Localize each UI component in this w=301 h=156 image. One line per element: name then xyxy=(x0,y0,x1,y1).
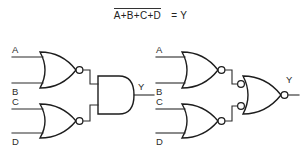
label-input-a: A xyxy=(12,44,19,55)
wire-nor1-to-and xyxy=(83,70,98,84)
label-input-d: D xyxy=(12,136,19,147)
label-input-c: C xyxy=(12,96,19,107)
circuit-canvas: A B C D Y xyxy=(0,0,301,156)
output-bubble-icon xyxy=(281,92,288,99)
wire-nor2-to-and xyxy=(83,105,98,121)
label-input-c: C xyxy=(156,96,163,107)
input-bubble-icon-top xyxy=(238,81,245,88)
nor-gate-body xyxy=(182,52,218,88)
nor-gate-body xyxy=(243,76,281,114)
left-nor-gate-1 xyxy=(12,52,83,88)
wire-nor2-to-final xyxy=(225,106,238,121)
label-output-y: Y xyxy=(286,74,293,85)
right-nor-gate-1 xyxy=(156,52,225,88)
nor-gate-body xyxy=(182,104,218,138)
right-circuit: A B C D Y xyxy=(156,44,299,147)
label-input-d: D xyxy=(156,136,163,147)
output-bubble-icon xyxy=(76,67,83,74)
logic-circuit-diagram: A+B+C+D=Y xyxy=(0,0,301,156)
nor-gate-body xyxy=(40,104,76,138)
output-bubble-icon xyxy=(76,118,83,125)
left-and-gate xyxy=(98,76,134,114)
wire-nor1-to-final xyxy=(225,70,238,84)
output-bubble-icon xyxy=(218,67,225,74)
label-output-y: Y xyxy=(138,81,145,92)
right-bubbled-input-nor-gate xyxy=(238,76,288,114)
left-circuit: A B C D Y xyxy=(12,44,154,147)
right-nor-gate-2 xyxy=(156,104,225,138)
label-input-a: A xyxy=(156,44,163,55)
output-bubble-icon xyxy=(218,118,225,125)
left-nor-gate-2 xyxy=(12,104,83,138)
nor-gate-body xyxy=(40,52,76,88)
and-gate-body xyxy=(98,76,134,114)
input-bubble-icon-bottom xyxy=(238,103,245,110)
